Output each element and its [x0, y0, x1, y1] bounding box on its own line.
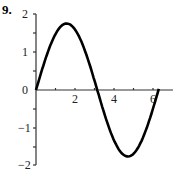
svg-text:2: 2	[22, 7, 28, 21]
svg-text:−1: −1	[18, 121, 31, 135]
svg-text:2: 2	[72, 92, 78, 106]
svg-text:1: 1	[22, 45, 28, 59]
svg-text:−2: −2	[18, 158, 31, 170]
svg-text:4: 4	[111, 92, 117, 106]
tick-labels: 2 1 0 −1 −2 2 4 6	[18, 7, 156, 170]
sine-chart: 2 1 0 −1 −2 2 4 6	[0, 0, 173, 170]
svg-text:0: 0	[22, 83, 28, 97]
